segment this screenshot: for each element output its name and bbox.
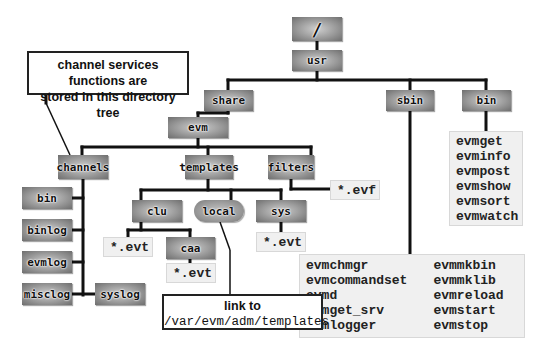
file-item: evmmkbin: [433, 258, 503, 273]
dir-caa: caa: [166, 237, 215, 259]
file-item: evmshow: [456, 179, 516, 194]
file-item: evmpost: [456, 164, 516, 179]
directory-tree-diagram: channel services functions are stored in…: [0, 0, 546, 342]
dir-misclog: misclog: [22, 283, 72, 305]
file-item: evmreload: [433, 288, 503, 303]
files-sys: *.evt: [256, 232, 306, 252]
file-item: evmmklib: [433, 273, 503, 288]
files-clu: *.evt: [103, 237, 153, 257]
dir-evm: evm: [168, 117, 228, 138]
note-line-2: stored in this directory tree: [29, 89, 187, 121]
file-item: evmchmgr: [306, 258, 407, 273]
file-item: evmget: [456, 134, 516, 149]
dir-syslog: syslog: [95, 283, 145, 305]
link-line-1: link to: [164, 298, 321, 314]
dir-clu: clu: [132, 200, 182, 222]
file-item: evmstart: [433, 303, 503, 318]
dir-channels-bin: bin: [22, 187, 72, 209]
dir-sys: sys: [256, 200, 306, 222]
dir-share: share: [204, 90, 253, 111]
dir-templates: templates: [185, 155, 233, 179]
sbin-column-2: evmmkbin evmmklib evmreload evmstart evm…: [433, 258, 503, 333]
file-item: evmsort: [456, 194, 516, 209]
dir-evmlog: evmlog: [22, 251, 72, 273]
link-line-2: /var/evm/adm/templates: [164, 314, 321, 330]
dir-bin: bin: [462, 90, 511, 111]
dir-sbin: sbin: [386, 90, 434, 111]
file-item: evminfo: [456, 149, 516, 164]
file-item: evmwatch: [456, 209, 516, 224]
note-line-1: channel services functions are: [29, 57, 187, 89]
link-callout: link to /var/evm/adm/templates: [162, 294, 323, 330]
files-caa: *.evt: [166, 263, 216, 283]
dir-root: /: [292, 17, 342, 41]
note-callout: channel services functions are stored in…: [27, 51, 189, 95]
files-filters: *.evf: [330, 180, 380, 200]
dir-filters: filters: [268, 155, 314, 179]
dir-channels: channels: [58, 155, 108, 179]
files-bin-list: evmget evminfo evmpost evmshow evmsort e…: [449, 131, 523, 226]
dir-usr: usr: [292, 50, 342, 71]
files-sbin-list: evmchmgr evmcommandset evmd evmget_srv e…: [299, 254, 525, 338]
dir-local-link: local: [194, 200, 244, 222]
file-item: evmcommandset: [306, 273, 407, 288]
file-item: evmstop: [433, 318, 503, 333]
dir-binlog: binlog: [22, 219, 72, 241]
